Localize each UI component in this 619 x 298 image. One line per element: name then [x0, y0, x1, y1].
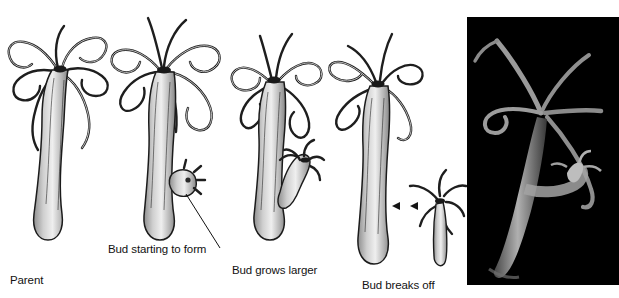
bud-starting-mouth: [157, 66, 171, 73]
bud-growing-drawing: [226, 20, 346, 250]
detached-bud-hydra: [410, 170, 466, 266]
detach-arrows: [392, 202, 418, 210]
label-parent: Parent: [10, 274, 43, 287]
small-bud: [169, 160, 205, 196]
breaks-off-parent-mouth: [371, 81, 384, 88]
stage-parent-hydra: [0, 18, 120, 248]
bud-growing-mouth: [267, 77, 280, 84]
bud-growing-body: [254, 82, 286, 240]
label-bud-starting-to-form: Bud starting to form: [108, 243, 206, 256]
bud-starting-drawing: [104, 8, 234, 248]
stage-bud-breaks-off: [330, 18, 470, 268]
stage-bud-starting: [104, 8, 234, 248]
parent-hydra-mouth: [54, 66, 67, 73]
label-bud-grows-larger: Bud grows larger: [232, 264, 317, 277]
growing-bud: [278, 140, 324, 208]
bud-breaks-off-drawing: [330, 18, 470, 268]
bud-starting-body: [144, 72, 176, 240]
parent-hydra-drawing: [0, 18, 120, 248]
breaks-off-parent-body: [358, 86, 390, 264]
photo-hydra-image: [467, 17, 619, 285]
stage-bud-growing: [226, 20, 346, 250]
bud-starting-leader-line: [186, 194, 220, 248]
label-bud-breaks-off: Bud breaks off: [362, 279, 435, 292]
hydra-photomicrograph: [467, 17, 619, 285]
